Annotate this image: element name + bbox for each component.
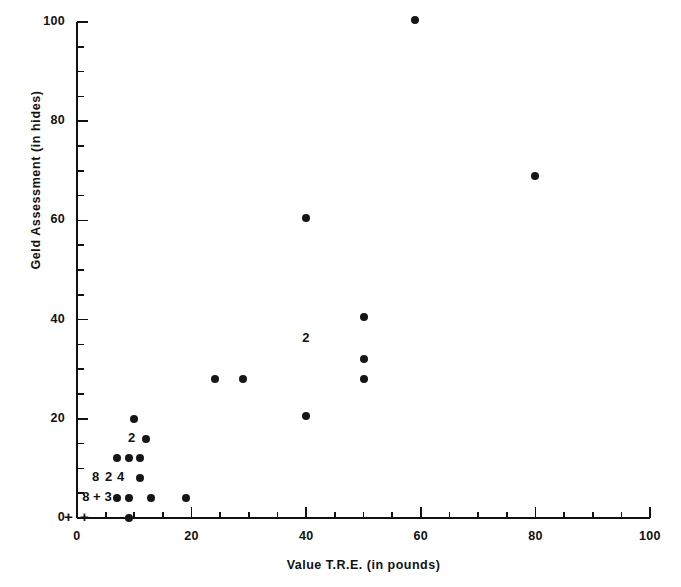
x-tick-label: 20 bbox=[169, 529, 215, 543]
count-annotation: 8 bbox=[82, 489, 89, 504]
baseline-plus-mark: + bbox=[64, 509, 73, 524]
data-point bbox=[411, 16, 419, 24]
data-point bbox=[360, 375, 368, 383]
y-tick-label: 80 bbox=[25, 113, 65, 127]
data-point bbox=[125, 494, 133, 502]
scatter-plot-figure: Geld Assessment (in hides) Value T.R.E. … bbox=[0, 0, 681, 587]
count-annotation: 8 bbox=[92, 469, 99, 484]
y-tick-label: 60 bbox=[25, 212, 65, 226]
x-tick-label: 100 bbox=[627, 529, 673, 543]
x-tick-label: 60 bbox=[398, 529, 444, 543]
y-tick-label: 0 bbox=[25, 510, 65, 524]
data-point bbox=[142, 435, 150, 443]
data-point bbox=[360, 355, 368, 363]
count-annotation: 2 bbox=[302, 330, 309, 345]
plot-axes bbox=[0, 0, 681, 587]
y-tick-label: 40 bbox=[25, 312, 65, 326]
data-point bbox=[360, 313, 368, 321]
count-annotation: 2 bbox=[105, 469, 112, 484]
x-axis-title: Value T.R.E. (in pounds) bbox=[77, 558, 650, 572]
x-tick-label: 0 bbox=[54, 529, 100, 543]
y-axis-title: Geld Assessment (in hides) bbox=[29, 40, 43, 320]
count-annotation: + bbox=[93, 489, 101, 504]
y-tick-label: 100 bbox=[25, 14, 65, 28]
x-tick-label: 40 bbox=[283, 529, 329, 543]
data-point bbox=[211, 375, 219, 383]
count-annotation: 4 bbox=[117, 469, 124, 484]
y-tick-label: 20 bbox=[25, 411, 65, 425]
data-point bbox=[182, 494, 190, 502]
count-annotation: 3 bbox=[105, 489, 112, 504]
data-point bbox=[125, 514, 133, 522]
x-tick-label: 80 bbox=[512, 529, 558, 543]
baseline-plus-mark: + bbox=[80, 509, 89, 524]
count-annotation: 2 bbox=[128, 430, 135, 445]
